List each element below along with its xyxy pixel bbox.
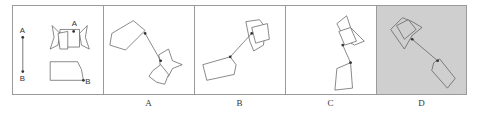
option-c-label[interactable]: C xyxy=(285,98,376,108)
puzzle-strip: A B A B xyxy=(12,5,467,95)
shape-point-label-b: B xyxy=(85,77,90,86)
card-shape xyxy=(50,62,83,81)
stimulus-figure: A B A B xyxy=(13,6,103,94)
option-b-label[interactable]: B xyxy=(194,98,285,108)
option-c-figure xyxy=(286,6,376,94)
option-c-panel[interactable] xyxy=(285,5,377,95)
option-d-label[interactable]: D xyxy=(376,98,467,108)
stimulus-panel: A B A B xyxy=(12,5,104,95)
option-a-panel[interactable] xyxy=(103,5,195,95)
folded-shape xyxy=(50,26,89,49)
option-a-figure xyxy=(104,6,194,94)
option-b-panel[interactable] xyxy=(194,5,286,95)
option-d-panel[interactable] xyxy=(376,5,467,95)
option-a-label[interactable]: A xyxy=(103,98,194,108)
option-d-figure xyxy=(377,6,466,94)
segment-label-b: B xyxy=(20,74,25,83)
segment-label-a: A xyxy=(20,26,26,35)
option-b-figure xyxy=(195,6,285,94)
shape-point-label-a: A xyxy=(72,19,78,28)
